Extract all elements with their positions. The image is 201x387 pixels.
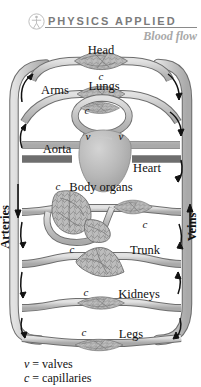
label-veins: Veins xyxy=(185,213,199,242)
page-title: PHYSICS APPLIED xyxy=(48,16,177,27)
blood-flow-diagram: Head c Arms c c Lungs Lungs v v Aorta He… xyxy=(0,42,201,354)
walking-person-icon xyxy=(28,13,45,30)
capillary-mark-trunk: c xyxy=(70,243,75,255)
label-kidneys: Kidneys xyxy=(118,287,160,301)
legend-symbol-c: c xyxy=(24,371,29,385)
legend-symbol-v: v xyxy=(24,357,29,371)
valve-mark-right: v xyxy=(119,130,124,142)
capillary-bed-trunk xyxy=(76,248,124,277)
capillary-mark-kidneys: c xyxy=(84,286,89,298)
diagram-legend: v = valves c = capillaries xyxy=(24,357,91,385)
capillary-mark-legs: c xyxy=(82,326,87,338)
title-underline-rule xyxy=(45,27,197,28)
label-body-organs: Body organs xyxy=(69,180,132,194)
legend-text-valves: valves xyxy=(42,357,73,371)
label-head: Head xyxy=(88,43,115,57)
label-lungs: Lungs xyxy=(88,79,119,93)
legend-row-capillaries: c = capillaries xyxy=(24,371,91,385)
label-arms: Arms xyxy=(41,83,69,97)
label-trunk: Trunk xyxy=(130,243,161,257)
legend-equals-v: = xyxy=(32,357,39,371)
circulatory-system-svg: Head c Arms c c Lungs Lungs v v Aorta He… xyxy=(0,42,201,354)
valve-mark-left: v xyxy=(86,130,91,142)
label-aorta: Aorta xyxy=(43,142,72,156)
legend-text-capillaries: capillaries xyxy=(42,371,91,385)
legend-row-valves: v = valves xyxy=(24,357,91,371)
label-legs: Legs xyxy=(119,327,143,341)
capillary-mark-organs2: c xyxy=(143,218,148,230)
physics-applied-header: PHYSICS APPLIED Blood flow xyxy=(0,0,201,44)
capillary-mark-organs1: c xyxy=(56,180,61,192)
capillary-mark-arms-visible: c xyxy=(85,104,90,116)
label-arteries: Arteries xyxy=(0,205,12,249)
legend-equals-c: = xyxy=(32,371,39,385)
label-heart: Heart xyxy=(133,161,161,175)
